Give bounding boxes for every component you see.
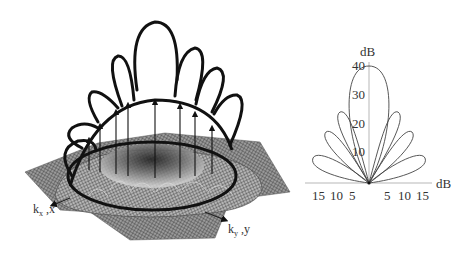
- y-tick-10: 10: [352, 145, 365, 158]
- x-tick-left-5: 5: [349, 189, 356, 202]
- 3d-pattern: [25, 22, 290, 240]
- y-tick-20: 20: [352, 117, 365, 130]
- x-tick-right-15: 15: [416, 189, 429, 202]
- horizontal-axis-title: dB: [436, 177, 451, 190]
- 2d-lobe-plot: [305, 62, 432, 185]
- y-tick-30: 30: [352, 88, 365, 101]
- x-tick-left-10: 10: [330, 189, 343, 202]
- vertical-axis-title: dB: [360, 45, 375, 58]
- side-lobe-right-1: [369, 112, 400, 183]
- figure: kx ,x ky ,y dB dB 40 30 20 10 15 10 5 5 …: [0, 0, 472, 253]
- origin-dot: [367, 181, 370, 184]
- x-tick-right-5: 5: [384, 189, 391, 202]
- ky-axis-label: ky ,y: [228, 223, 250, 238]
- y-tick-40: 40: [352, 59, 365, 72]
- kx-axis-label: kx ,x: [33, 203, 55, 218]
- x-tick-right-10: 10: [398, 189, 411, 202]
- x-tick-left-15: 15: [312, 189, 325, 202]
- figure-canvas: [0, 0, 472, 253]
